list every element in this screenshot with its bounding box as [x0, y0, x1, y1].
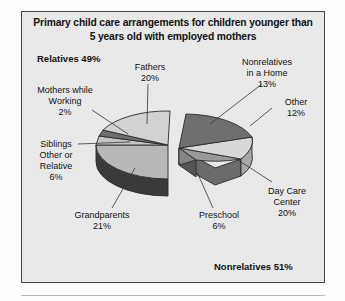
label-nonrelatives-home-line1: Nonrelatives — [228, 57, 306, 68]
label-fathers-pct: 20% — [119, 73, 181, 84]
label-other-pct: 12% — [272, 108, 320, 119]
label-preschool-name: Preschool — [189, 210, 249, 221]
pie-left-half — [96, 111, 170, 196]
label-siblings-line3: Relative — [26, 161, 86, 172]
label-day-care-center: Day Care Center 20% — [256, 186, 318, 219]
label-daycare-pct: 20% — [256, 208, 318, 219]
label-mothers-while-working: Mothers while Working 2% — [24, 85, 106, 118]
label-fathers-name: Fathers — [119, 62, 181, 73]
label-mothers-pct: 2% — [24, 107, 106, 118]
label-daycare-line1: Day Care — [256, 186, 318, 197]
label-fathers: Fathers 20% — [119, 62, 181, 84]
leader-other — [250, 108, 272, 126]
bottom-divider — [21, 295, 325, 296]
label-nonrelatives-home-pct: 13% — [228, 79, 306, 90]
label-mothers-line1: Mothers while — [24, 85, 106, 96]
pie-right-half — [179, 114, 252, 185]
label-siblings-line2: Other or — [26, 150, 86, 161]
leader-nonrelatives-home — [210, 84, 262, 124]
label-other: Other 12% — [272, 97, 320, 119]
label-nonrelatives-home-line2: in a Home — [228, 68, 306, 79]
label-siblings: Siblings Other or Relative 6% — [26, 139, 86, 183]
label-grandparents-name: Grandparents — [62, 210, 142, 221]
label-preschool-pct: 6% — [189, 221, 249, 232]
label-nonrelatives-in-a-home: Nonrelatives in a Home 13% — [228, 57, 306, 90]
label-grandparents: Grandparents 21% — [62, 210, 142, 232]
label-other-name: Other — [272, 97, 320, 108]
label-siblings-pct: 6% — [26, 172, 86, 183]
label-mothers-line2: Working — [24, 96, 106, 107]
label-daycare-line2: Center — [256, 197, 318, 208]
label-grandparents-pct: 21% — [62, 221, 142, 232]
label-siblings-line1: Siblings — [26, 139, 86, 150]
chart-figure: Primary child care arrangements for chil… — [0, 0, 345, 301]
label-preschool: Preschool 6% — [189, 210, 249, 232]
